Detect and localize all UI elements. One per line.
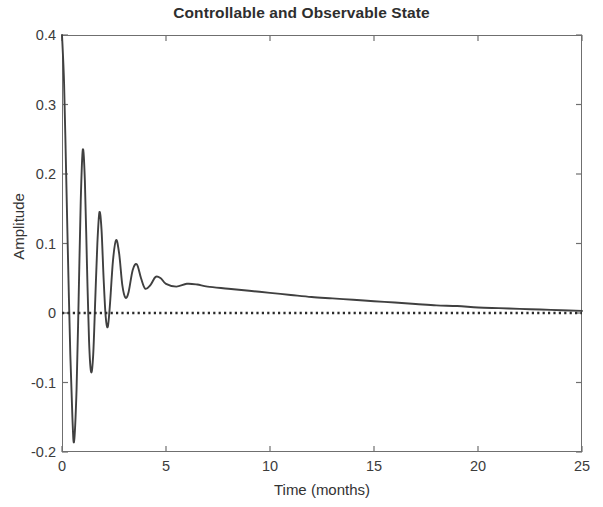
y-tick-label: 0.3 <box>4 97 56 113</box>
x-tick-label: 0 <box>32 458 92 474</box>
x-tick-label: 10 <box>240 458 300 474</box>
x-tick-label: 15 <box>344 458 404 474</box>
chart-canvas <box>62 35 582 452</box>
chart-figure: Controllable and Observable State 0.40.3… <box>0 0 603 507</box>
y-axis-tick-labels: 0.40.30.20.10-0.1-0.2 <box>0 35 56 452</box>
x-tick-label: 20 <box>448 458 508 474</box>
x-tick-label: 5 <box>136 458 196 474</box>
y-axis-label: Amplitude <box>10 157 27 297</box>
y-tick-label: -0.1 <box>4 375 56 391</box>
y-tick-label: 0.4 <box>4 27 56 43</box>
x-tick-label: 25 <box>552 458 603 474</box>
x-axis-tick-labels: 0510152025 <box>62 458 582 480</box>
response-curve <box>62 35 582 442</box>
y-tick-label: 0 <box>4 305 56 321</box>
chart-title: Controllable and Observable State <box>0 4 603 22</box>
plot-area <box>62 35 582 452</box>
x-axis-label: Time (months) <box>62 481 582 498</box>
